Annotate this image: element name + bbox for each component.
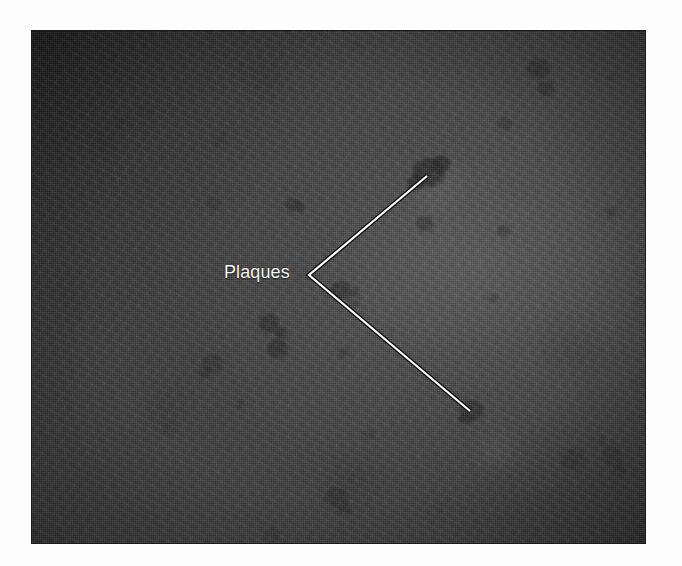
vignette xyxy=(32,31,645,543)
micrograph-image xyxy=(31,30,646,544)
figure-root: Plaques xyxy=(0,0,682,566)
